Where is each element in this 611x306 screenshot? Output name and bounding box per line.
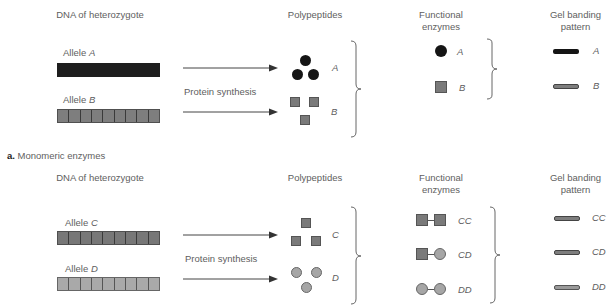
functional-enzymes-header: Functional enzymes xyxy=(408,9,474,33)
gel-banding-header: Gel banding pattern xyxy=(540,172,611,196)
polypeptide-b-square xyxy=(309,97,319,107)
panel-a-caption: a. Monomeric enzymes xyxy=(7,150,105,161)
enzyme-b-square xyxy=(435,81,447,93)
dna-header: DNA of heterozygote xyxy=(55,172,145,184)
polypeptide-a-circle xyxy=(300,55,311,66)
gel-banding-header: Gel banding pattern xyxy=(540,9,611,33)
gel-band-b xyxy=(553,84,579,89)
allele-c-dna-bar xyxy=(57,231,160,245)
polypeptide-a-circle xyxy=(308,69,319,80)
polypeptides-header: Polypeptides xyxy=(275,172,355,184)
polypeptide-b-label: B xyxy=(331,106,337,117)
allele-c-label: Allele C xyxy=(65,217,98,228)
allele-a-dna-bar xyxy=(57,63,160,77)
gel-band-cd xyxy=(554,250,580,255)
polypeptide-c-label: C xyxy=(332,229,339,240)
enzyme-cd-square xyxy=(416,248,428,260)
polypeptide-c-square xyxy=(311,236,321,246)
brace-icon xyxy=(350,40,364,138)
gel-band-dd-label: DD xyxy=(592,281,606,292)
enzyme-cc-square-2 xyxy=(434,214,446,226)
brace-icon xyxy=(350,206,364,306)
enzyme-dd-circle-1 xyxy=(416,283,428,295)
enzyme-cd-label: CD xyxy=(458,249,472,260)
enzyme-cd-circle xyxy=(434,248,446,260)
allele-d-label: Allele D xyxy=(65,263,98,274)
protein-synthesis-label: Protein synthesis xyxy=(185,253,257,264)
allele-a-label: Allele A xyxy=(63,47,95,58)
polypeptide-d-circle xyxy=(311,267,322,278)
gel-band-a-label: A xyxy=(593,45,599,56)
gel-band-b-label: B xyxy=(593,80,599,91)
enzyme-b-label: B xyxy=(459,82,465,93)
enzyme-a-circle xyxy=(435,45,447,57)
arrow-icon xyxy=(183,230,278,240)
polypeptide-c-square xyxy=(291,236,301,246)
arrow-icon xyxy=(183,63,278,73)
gel-band-a xyxy=(553,49,579,54)
gel-band-cd-label: CD xyxy=(592,246,606,257)
polypeptide-b-square xyxy=(300,115,310,125)
arrow-icon xyxy=(183,107,278,117)
enzyme-cc-label: CC xyxy=(458,215,472,226)
polypeptides-header: Polypeptides xyxy=(275,9,355,21)
arrow-icon xyxy=(183,274,278,284)
protein-synthesis-label: Protein synthesis xyxy=(184,86,256,97)
dna-header-line1: DNA of heterozygote xyxy=(55,9,145,21)
gel-band-cc-label: CC xyxy=(592,212,606,223)
allele-b-label: Allele B xyxy=(63,94,95,105)
gel-band-cc xyxy=(554,216,580,221)
brace-icon xyxy=(489,206,503,304)
gel-band-dd xyxy=(554,285,580,290)
functional-enzymes-header: Functional enzymes xyxy=(408,172,474,196)
polypeptide-a-label: A xyxy=(332,62,338,73)
polypeptide-d-label: D xyxy=(332,272,339,283)
polypeptide-c-square xyxy=(301,218,311,228)
brace-icon xyxy=(486,38,500,100)
polypeptide-d-circle xyxy=(291,267,302,278)
enzyme-dd-label: DD xyxy=(458,284,472,295)
polypeptide-b-square xyxy=(290,97,300,107)
allele-b-dna-bar xyxy=(57,109,160,123)
enzyme-cc-square-1 xyxy=(416,214,428,226)
enzyme-dd-circle-2 xyxy=(434,283,446,295)
enzyme-a-label: A xyxy=(457,46,463,57)
allele-d-dna-bar xyxy=(57,277,160,291)
polypeptide-a-circle xyxy=(292,69,303,80)
polypeptide-d-circle xyxy=(301,282,312,293)
